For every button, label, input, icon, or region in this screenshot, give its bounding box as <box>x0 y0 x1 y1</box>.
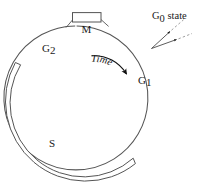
g2-phase-subscript: 2 <box>50 44 56 56</box>
m-phase-label-text: M <box>82 23 92 35</box>
cell-cycle-figure: Time M G2 G1 <box>0 0 199 191</box>
cell-cycle-diagram: Time M G2 G1 <box>0 0 199 191</box>
time-label-text: Time <box>91 53 115 68</box>
g2-phase-label-text: G <box>42 42 50 54</box>
s-phase-label-text: S <box>49 137 55 149</box>
g1-phase-label: G1 <box>138 74 151 89</box>
m-phase-box <box>73 13 102 22</box>
g0-state-suffix: state <box>165 10 187 21</box>
g0-dashed-upper <box>172 20 184 30</box>
m-box-right-connector <box>101 19 109 26</box>
s-phase-band <box>5 63 135 182</box>
g0-state-label: G0 state <box>152 10 187 24</box>
g2-phase-label: G2 <box>42 42 55 57</box>
m-phase-label: M <box>82 23 92 35</box>
time-label: Time <box>91 53 115 68</box>
g0-arrow-upper <box>152 32 171 49</box>
g0-arrow-lower <box>152 40 177 49</box>
g0-dashed-lower <box>179 34 193 39</box>
g1-phase-label-text: G <box>138 74 146 86</box>
g1-phase-subscript: 1 <box>146 76 152 88</box>
s-phase-label: S <box>49 137 55 149</box>
